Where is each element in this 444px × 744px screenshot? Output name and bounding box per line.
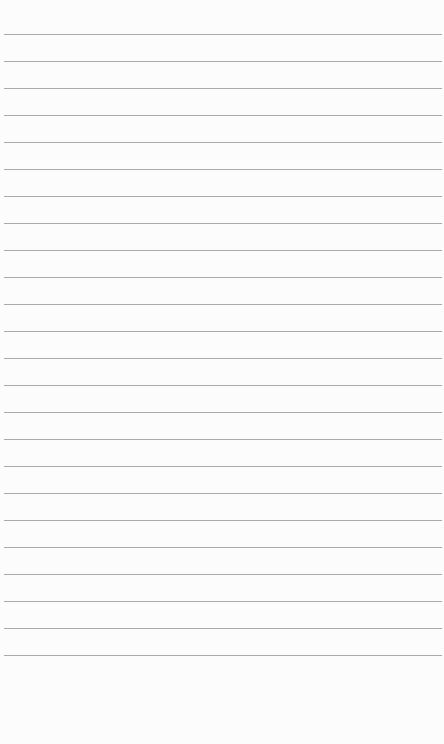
ruled-line <box>4 196 442 197</box>
ruled-line <box>4 574 442 575</box>
ruled-line <box>4 493 442 494</box>
ruled-line <box>4 466 442 467</box>
ruled-line <box>4 115 442 116</box>
ruled-line <box>4 601 442 602</box>
ruled-line <box>4 385 442 386</box>
ruled-line <box>4 628 442 629</box>
ruled-line <box>4 439 442 440</box>
ruled-line <box>4 331 442 332</box>
ruled-line <box>4 142 442 143</box>
ruled-line <box>4 34 442 35</box>
ruled-line <box>4 88 442 89</box>
ruled-line <box>4 277 442 278</box>
ruled-line <box>4 547 442 548</box>
ruled-line <box>4 169 442 170</box>
ruled-line <box>4 520 442 521</box>
ruled-line <box>4 412 442 413</box>
ruled-line <box>4 223 442 224</box>
ruled-line <box>4 655 442 656</box>
ruled-line <box>4 250 442 251</box>
ruled-line <box>4 61 442 62</box>
ruled-line <box>4 358 442 359</box>
ruled-line <box>4 304 442 305</box>
lined-paper-sheet <box>0 0 444 744</box>
